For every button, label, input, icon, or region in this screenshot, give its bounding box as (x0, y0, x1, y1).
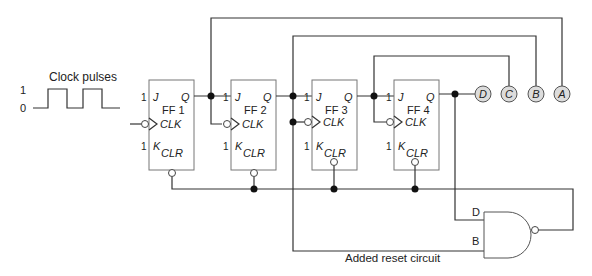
ff2-k-level: 1 (223, 141, 229, 152)
ff4-clr: CLR (406, 147, 428, 159)
ff3-clk: CLK (323, 116, 345, 128)
nand-input-b-label: B (472, 235, 479, 247)
ff2-q: Q (263, 91, 272, 103)
ff2-k: K (235, 140, 243, 152)
ff4-name: FF 4 (407, 104, 430, 116)
clock-level-high: 1 (20, 84, 26, 96)
ff4-k-level: 1 (386, 141, 392, 152)
nand-gate: D B (472, 206, 539, 258)
ff4-clr-bubble (412, 159, 419, 166)
junction-q2-clk (290, 119, 297, 126)
ff1-k: K (153, 140, 161, 152)
output-indicators: D C B A (475, 86, 570, 102)
flip-flop-1: 1 J Q FF 1 CLK 1 K CLR (141, 80, 194, 177)
nand-output-bubble (532, 227, 539, 234)
output-d-label: D (479, 88, 487, 100)
nand-gate-body (484, 212, 531, 258)
clock-level-low: 0 (20, 102, 26, 114)
ff2-clr: CLR (243, 147, 265, 159)
ff3-to-ff4-clk-wire (374, 96, 386, 122)
ff4-clk: CLK (405, 116, 427, 128)
nand-input-d-label: D (472, 206, 480, 218)
ff1-clk-bubble (142, 121, 149, 128)
ff3-clr-bubble (331, 159, 338, 166)
junction-clr-4 (412, 186, 419, 193)
ff4-j: J (397, 91, 404, 103)
ff2-clk-bubble (224, 121, 231, 128)
ff3-k: K (316, 140, 324, 152)
flip-flop-2: 1 J Q FF 2 CLK 1 K CLR (223, 80, 276, 177)
ff3-clr: CLR (324, 147, 346, 159)
ff3-q: Q (344, 91, 353, 103)
ff1-clr: CLR (161, 147, 183, 159)
ff3-j-level: 1 (304, 92, 310, 103)
output-c-label: C (505, 88, 513, 100)
ff1-clk: CLK (160, 118, 182, 130)
reset-circuit-label: Added reset circuit (345, 252, 441, 264)
ff3-clk-bubble (305, 119, 312, 126)
counter-circuit-diagram: Clock pulses 1 0 1 J Q FF 1 CLK 1 K CLR … (0, 0, 592, 276)
clock-label: Clock pulses (49, 70, 117, 84)
junction-q3 (371, 93, 378, 100)
wire-q4-to-nand-d (455, 94, 484, 220)
ff2-j: J (234, 91, 241, 103)
ff1-q: Q (181, 91, 190, 103)
ff3-k-level: 1 (304, 141, 310, 152)
junction-clr-2 (251, 186, 258, 193)
ff2-clk: CLK (242, 118, 264, 130)
ff4-k: K (398, 140, 406, 152)
junction-q1 (208, 93, 215, 100)
ff1-to-ff2-clk-wire (211, 96, 222, 124)
ff2-name: FF 2 (244, 104, 267, 116)
ff1-name: FF 1 (162, 104, 185, 116)
ff4-j-level: 1 (386, 92, 392, 103)
output-b-label: B (532, 88, 539, 100)
ff4-q: Q (426, 91, 435, 103)
ff1-j-level: 1 (141, 92, 147, 103)
clock-pulses: Clock pulses 1 0 (20, 70, 120, 114)
flip-flop-4: 1 J Q FF 4 CLK 1 K CLR (386, 80, 439, 170)
ff1-j: J (152, 91, 159, 103)
ff1-k-level: 1 (141, 141, 147, 152)
ff2-clr-bubble (251, 170, 258, 177)
ff3-name: FF 3 (325, 104, 348, 116)
flip-flop-3: 1 J Q FF 3 CLK 1 K CLR (304, 80, 357, 170)
ff3-j: J (315, 91, 322, 103)
ff2-j-level: 1 (223, 92, 229, 103)
clock-waveform (33, 89, 120, 108)
output-a-label: A (557, 88, 565, 100)
junction-q2 (290, 93, 297, 100)
ff4-clk-bubble (387, 119, 394, 126)
junction-clr-3 (331, 186, 338, 193)
ff1-clr-bubble (169, 170, 176, 177)
junction-q4 (452, 91, 459, 98)
